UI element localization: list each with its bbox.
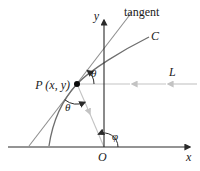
point-p-label: P (x, y): [34, 78, 70, 92]
origin-label: O: [98, 150, 107, 164]
math-diagram: tangent y C L P (x, y) θ θ φ O x: [0, 0, 200, 171]
diagram-canvas: tangent y C L P (x, y) θ θ φ O x: [0, 0, 200, 171]
line-l-label: L: [168, 65, 176, 79]
segment-po-part: [90, 114, 104, 147]
tangent-label: tangent: [124, 5, 160, 19]
y-axis-label: y: [93, 9, 100, 23]
segment-po-part: [77, 84, 90, 114]
curve-c-label: C: [151, 29, 160, 43]
point-p-dot: [74, 81, 80, 87]
theta-upper-label: θ: [91, 67, 97, 79]
segment-po: [77, 84, 104, 147]
phi-label: φ: [112, 130, 118, 142]
x-axis-label: x: [185, 150, 192, 164]
theta-lower-label: θ: [65, 101, 71, 113]
